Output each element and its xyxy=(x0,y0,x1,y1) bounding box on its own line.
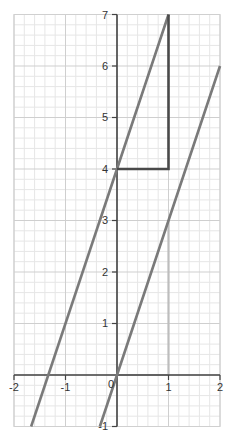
y-tick-label: 2 xyxy=(102,266,108,278)
y-tick-label: 4 xyxy=(102,163,108,175)
line-y-3x xyxy=(100,66,220,427)
x-tick-label: -1 xyxy=(61,381,71,393)
y-tick-label: 6 xyxy=(102,60,108,72)
x-tick-label: -2 xyxy=(9,381,19,393)
y-tick-label: 3 xyxy=(102,214,108,226)
x-tick-label: 0 xyxy=(108,378,114,390)
x-tick-label: 1 xyxy=(165,381,171,393)
y-tick-label: -1 xyxy=(98,420,108,432)
line-chart: -2 -1 0 1 2 -1 1 2 3 4 5 6 7 xyxy=(0,0,231,432)
y-tick-label: 7 xyxy=(102,9,108,21)
x-tick-label: 2 xyxy=(217,381,223,393)
y-tick-label: 5 xyxy=(102,111,108,123)
y-tick-label: 1 xyxy=(102,317,108,329)
